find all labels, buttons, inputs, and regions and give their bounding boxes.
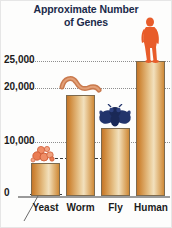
x-axis-baseline xyxy=(18,196,170,198)
fly-icon xyxy=(97,104,133,130)
yeast-cells-icon xyxy=(30,145,60,165)
bar-yeast[interactable] xyxy=(31,163,60,196)
ytick-label-25000: 25,000 xyxy=(0,54,56,65)
category-label-human: Human xyxy=(125,202,172,213)
bar-worm[interactable] xyxy=(66,95,95,196)
ytick-label-20000: 20,000 xyxy=(0,81,56,92)
bar-fly[interactable] xyxy=(101,128,130,196)
human-figure-icon xyxy=(136,17,166,63)
plot-area: 25,000 20,000 10,000 0 Yeast Worm Fly Hu… xyxy=(0,0,172,228)
worm-icon xyxy=(58,73,102,97)
gene-count-bar-chart: Approximate Number of Genes 25,000 20,00… xyxy=(0,0,172,228)
bar-human[interactable] xyxy=(136,61,165,196)
